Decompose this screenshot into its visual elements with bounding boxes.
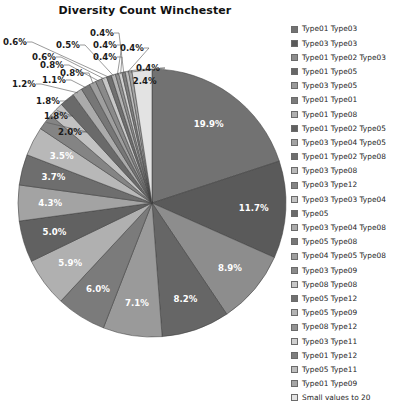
legend-swatch-icon	[291, 82, 298, 89]
pie-callout-value-label: 0.6%	[3, 37, 27, 47]
pie-slice-value-label: 3.7%	[41, 172, 65, 182]
legend-swatch-icon	[291, 97, 298, 104]
pie-slice-value-label: 7.1%	[125, 298, 149, 308]
legend-item-label: Type03 Type12	[302, 181, 357, 188]
pie-callout-value-label: 0.4%	[136, 63, 160, 73]
legend-swatch-icon	[291, 40, 298, 47]
legend-item-label: Type01 Type12	[302, 352, 357, 359]
legend-item[interactable]: Type08 Type12	[291, 320, 393, 334]
legend-item-label: Small values to 20	[302, 394, 370, 401]
pie-callout-value-label: 2.0%	[58, 127, 82, 137]
legend-swatch-icon	[291, 324, 298, 331]
legend-item[interactable]: Type01 Type01	[291, 93, 393, 107]
legend-item-label: Type08 Type12	[302, 323, 357, 330]
legend-item[interactable]: Type01 Type02 Type08	[291, 150, 393, 164]
pie-callout-value-label: 1.2%	[12, 79, 36, 89]
legend-item[interactable]: Type08 Type08	[291, 277, 393, 291]
legend-item[interactable]: Type05 Type09	[291, 306, 393, 320]
legend-item-label: Type03 Type04 Type08	[302, 224, 386, 231]
legend-item[interactable]: Small values to 20	[291, 391, 393, 405]
legend-swatch-icon	[291, 196, 298, 203]
legend-swatch-icon	[291, 338, 298, 345]
legend-item[interactable]: Type01 Type12	[291, 348, 393, 362]
pie-leader-line	[84, 73, 93, 84]
pie-slice-value-label: 3.5%	[50, 151, 74, 161]
legend-item[interactable]: Type01 Type05	[291, 65, 393, 79]
pie-callout-value-label: 0.6%	[32, 52, 56, 62]
legend-item-label: Type03 Type09	[302, 267, 357, 274]
pie-callout-value-label: 0.4%	[90, 28, 114, 38]
legend-item-label: Type01 Type02 Type03	[302, 54, 386, 61]
legend-item[interactable]: Type05 Type08	[291, 235, 393, 249]
legend-item[interactable]: Type05 Type12	[291, 292, 393, 306]
legend-swatch-icon	[291, 224, 298, 231]
pie-slice-value-label: 8.2%	[173, 294, 197, 304]
legend-item-label: Type05 Type12	[302, 295, 357, 302]
legend-swatch-icon	[291, 281, 298, 288]
legend-item-label: Type05 Type09	[302, 309, 357, 316]
legend-item[interactable]: Type03 Type08	[291, 164, 393, 178]
legend-swatch-icon	[291, 167, 298, 174]
legend-swatch-icon	[291, 352, 298, 359]
legend-item-label: Type01 Type02 Type05	[302, 125, 386, 132]
legend-swatch-icon	[291, 253, 298, 260]
pie-slice-value-label: 5.0%	[43, 227, 67, 237]
legend-swatch-icon	[291, 309, 298, 316]
legend-swatch-icon	[291, 210, 298, 217]
legend-swatch-icon	[291, 68, 298, 75]
legend-swatch-icon	[291, 139, 298, 146]
legend-swatch-icon	[291, 153, 298, 160]
pie-callout-value-label: 0.4%	[120, 43, 144, 53]
legend-item[interactable]: Type03 Type12	[291, 178, 393, 192]
legend-item-label: Type01 Type08	[302, 111, 357, 118]
legend-item[interactable]: Type01 Type02 Type03	[291, 50, 393, 64]
pie-callout-value-label: 2.4%	[133, 76, 157, 86]
pie-leader-line	[36, 84, 78, 93]
legend-item-label: Type03 Type03	[302, 40, 357, 47]
legend-swatch-icon	[291, 366, 298, 373]
legend-item-label: Type03 Type03 Type04	[302, 196, 386, 203]
legend-swatch-icon	[291, 238, 298, 245]
legend-item-label: Type03 Type08	[302, 167, 357, 174]
legend-item-label: Type05 Type08	[302, 238, 357, 245]
pie-slice-value-label: 11.7%	[239, 203, 269, 213]
legend-item-label: Type04 Type05 Type08	[302, 252, 386, 259]
legend-item[interactable]: Type03 Type03	[291, 36, 393, 50]
pie-callout-value-label: 1.8%	[36, 96, 60, 106]
legend-item[interactable]: Type03 Type11	[291, 334, 393, 348]
pie-slice-value-label: 5.9%	[58, 258, 82, 268]
legend-item[interactable]: Type03 Type04 Type08	[291, 221, 393, 235]
legend-item[interactable]: Type03 Type09	[291, 263, 393, 277]
legend-swatch-icon	[291, 54, 298, 61]
legend-item[interactable]: Type01 Type08	[291, 107, 393, 121]
legend-swatch-icon	[291, 182, 298, 189]
legend-item[interactable]: Type03 Type05	[291, 79, 393, 93]
pie-callout-value-label: 1.8%	[44, 111, 68, 121]
legend-item[interactable]: Type03 Type03 Type04	[291, 192, 393, 206]
legend-item-label: Type08 Type08	[302, 281, 357, 288]
pie-slice-value-label: 8.9%	[218, 263, 242, 273]
legend-swatch-icon	[291, 111, 298, 118]
pie-callout-value-label: 0.4%	[93, 52, 117, 62]
legend-item[interactable]: Type01 Type03	[291, 22, 393, 36]
pie-callout-value-label: 0.5%	[56, 40, 80, 50]
pie-callout-value-label: 0.4%	[93, 40, 117, 50]
legend-swatch-icon	[291, 380, 298, 387]
legend-item-label: Type03 Type05	[302, 82, 357, 89]
legend-item-label: Type05	[302, 210, 328, 217]
legend-item[interactable]: Type01 Type02 Type05	[291, 121, 393, 135]
legend-item[interactable]: Type04 Type05 Type08	[291, 249, 393, 263]
legend-swatch-icon	[291, 125, 298, 132]
legend-item-label: Type01 Type02 Type08	[302, 153, 386, 160]
legend-swatch-icon	[291, 394, 298, 401]
legend-item[interactable]: Type03 Type04 Type05	[291, 136, 393, 150]
legend-item[interactable]: Type05 Type11	[291, 363, 393, 377]
legend-swatch-icon	[291, 267, 298, 274]
legend-item-label: Type05 Type11	[302, 366, 357, 373]
legend-swatch-icon	[291, 295, 298, 302]
legend-item[interactable]: Type01 Type09	[291, 377, 393, 391]
legend-item-label: Type03 Type11	[302, 338, 357, 345]
legend-item[interactable]: Type05	[291, 206, 393, 220]
pie-slice-value-label: 4.3%	[38, 198, 62, 208]
legend-swatch-icon	[291, 26, 298, 33]
